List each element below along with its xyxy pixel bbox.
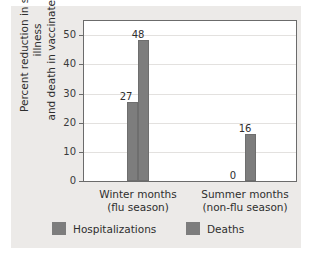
legend-swatch-hospitalizations	[52, 222, 66, 235]
x-category-label-summer: Summer months (non-flu season)	[190, 188, 300, 214]
bar-value-summer-deaths: 16	[233, 123, 257, 134]
chart-figure: Percent reduction in severe illness and …	[0, 0, 322, 263]
y-tick-label-20: 20	[60, 117, 76, 128]
y-tick-label-10: 10	[60, 146, 76, 157]
gridline-50	[84, 35, 296, 36]
bar-value-winter-deaths: 48	[126, 29, 150, 40]
legend-item-hospitalizations: Hospitalizations	[52, 222, 156, 235]
bar-value-winter-hospitalizations: 27	[114, 91, 138, 102]
x-category-label-winter: Winter months (flu season)	[83, 188, 193, 214]
y-tick-label-50: 50	[60, 29, 76, 40]
bar-winter-hospitalizations	[127, 102, 138, 181]
y-tick-label-0: 0	[60, 175, 76, 186]
gridline-20	[84, 123, 296, 124]
y-tick-label-40: 40	[60, 58, 76, 69]
chart-legend: Hospitalizations Deaths	[52, 222, 282, 240]
bar-winter-deaths	[138, 40, 149, 181]
legend-label-hospitalizations: Hospitalizations	[73, 223, 156, 235]
y-axis-title: Percent reduction in severe illness and …	[15, 0, 61, 124]
legend-swatch-deaths	[186, 222, 200, 235]
y-tick-label-30: 30	[60, 88, 76, 99]
legend-item-deaths: Deaths	[186, 222, 244, 235]
legend-label-deaths: Deaths	[207, 223, 244, 235]
gridline-10	[84, 152, 296, 153]
bar-value-summer-hospitalizations: 0	[221, 170, 245, 181]
y-axis-title-text: Percent reduction in severe illness and …	[18, 0, 59, 124]
gridline-40	[84, 64, 296, 65]
bar-summer-deaths	[245, 134, 256, 181]
